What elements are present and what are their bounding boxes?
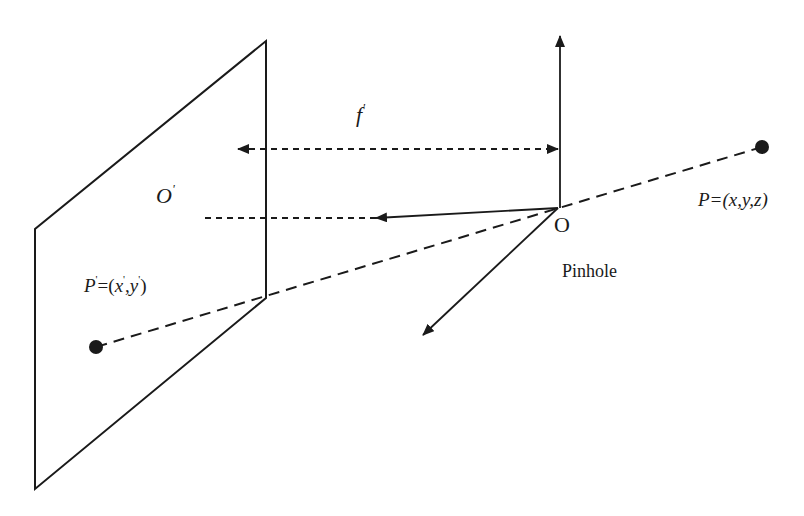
image-point-label: P'=(x',y')	[83, 273, 147, 297]
image-center-label: O'	[156, 181, 175, 208]
origin-label: O	[554, 212, 570, 237]
depth-axis-arrow	[423, 208, 558, 335]
pinhole-caption: Pinhole	[562, 261, 617, 281]
pinhole-camera-diagram: f' O' O Pinhole P=(x,y,z) P'=(x',y')	[0, 0, 804, 516]
image-plane	[35, 41, 266, 489]
world-point-dot	[755, 140, 769, 154]
world-point-label: P=(x,y,z)	[697, 189, 768, 211]
focal-length-label: f'	[356, 100, 365, 127]
projection-ray	[96, 147, 762, 347]
image-point-dot	[89, 340, 103, 354]
